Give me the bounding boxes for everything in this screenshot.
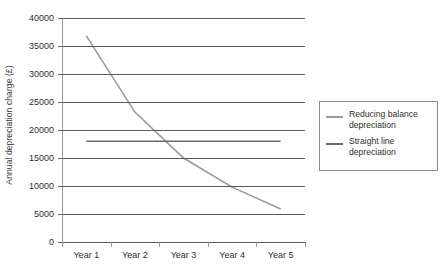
legend-line-icon	[326, 112, 343, 121]
gridline	[62, 102, 305, 103]
legend-entry[interactable]: Reducing balance depreciation	[326, 109, 431, 130]
gridline	[62, 46, 305, 47]
gridline	[62, 242, 305, 243]
legend-entry[interactable]: Straight line depreciation	[326, 136, 431, 157]
gridline	[62, 186, 305, 187]
series-line	[86, 36, 280, 209]
x-tick-label: Year 2	[122, 250, 148, 260]
y-axis-title-label: Annual depreciation charge (£)	[4, 65, 14, 184]
gridline	[62, 214, 305, 215]
y-tick-mark	[58, 74, 63, 75]
x-tick-mark	[111, 242, 112, 247]
y-tick-label: 5000	[34, 209, 54, 219]
x-axis-tick-labels: Year 1Year 2Year 3Year 4Year 5	[62, 248, 305, 266]
x-tick-mark	[256, 242, 257, 247]
y-tick-mark	[58, 214, 63, 215]
y-tick-mark	[58, 102, 63, 103]
depreciation-line-chart: Annual depreciation charge (£) 050001000…	[0, 0, 442, 273]
legend-label: Reducing balance depreciation	[349, 109, 418, 130]
x-tick-label: Year 1	[73, 250, 99, 260]
y-tick-mark	[58, 186, 63, 187]
y-axis-title: Annual depreciation charge (£)	[0, 0, 18, 250]
y-tick-label: 30000	[29, 69, 54, 79]
y-tick-label: 25000	[29, 97, 54, 107]
gridline	[62, 18, 305, 19]
y-tick-label: 15000	[29, 153, 54, 163]
x-tick-mark	[208, 242, 209, 247]
gridline	[62, 158, 305, 159]
y-tick-label: 0	[49, 237, 54, 247]
x-tick-mark	[305, 242, 306, 247]
y-tick-mark	[58, 18, 63, 19]
chart-legend: Reducing balance depreciationStraight li…	[319, 101, 438, 171]
legend-label: Straight line depreciation	[349, 136, 396, 157]
y-tick-mark	[58, 46, 63, 47]
y-tick-mark	[58, 158, 63, 159]
x-tick-label: Year 5	[268, 250, 294, 260]
y-tick-label: 10000	[29, 181, 54, 191]
plot-area	[62, 18, 305, 242]
y-tick-label: 20000	[29, 125, 54, 135]
gridline	[62, 130, 305, 131]
y-tick-label: 35000	[29, 41, 54, 51]
y-axis-tick-labels: 0500010000150002000025000300003500040000	[18, 10, 58, 242]
legend-line-icon	[326, 139, 343, 148]
x-tick-mark	[159, 242, 160, 247]
x-tick-mark	[62, 242, 63, 247]
gridline	[62, 74, 305, 75]
x-tick-label: Year 3	[171, 250, 197, 260]
y-tick-label: 40000	[29, 13, 54, 23]
y-tick-mark	[58, 130, 63, 131]
x-tick-label: Year 4	[219, 250, 245, 260]
